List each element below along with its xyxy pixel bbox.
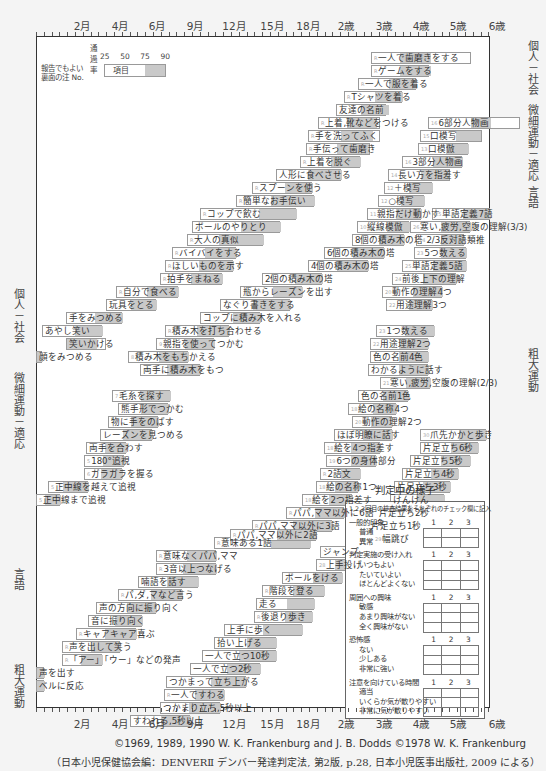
footnote-number: R bbox=[203, 211, 206, 217]
milestone-label: 一人で立つ10秒 bbox=[205, 650, 270, 662]
observation-checkbox-cell[interactable] bbox=[424, 529, 442, 538]
footnote-number: 25 bbox=[435, 211, 441, 217]
observation-checkbox-cell[interactable] bbox=[442, 656, 460, 665]
age-tick-label: 2歳 bbox=[338, 716, 355, 731]
observation-checkbox-cell[interactable] bbox=[461, 646, 478, 655]
footnote-number: 5 bbox=[87, 458, 90, 464]
axis-tick bbox=[270, 708, 271, 712]
milestone-label: 2個の積み木の塔 bbox=[265, 273, 333, 285]
observation-checkbox-cell[interactable] bbox=[461, 656, 478, 665]
sector-label-fine-motor-right: 微細運動－適応 bbox=[526, 104, 538, 181]
milestone-label: 8積み木をもちかえる bbox=[131, 351, 216, 363]
observation-checkbox-cell[interactable] bbox=[442, 561, 460, 570]
legend-item-label: 項目 bbox=[113, 65, 129, 76]
milestone-label: 片足立ち3秒 bbox=[397, 481, 447, 493]
milestone-label: 片足立ち6秒 bbox=[423, 442, 473, 454]
axis-tick bbox=[278, 708, 279, 712]
milestone-text: 寒い,疲労,空腹の理解(2/3) bbox=[390, 378, 497, 388]
milestone-text: 親指を使ってつかむ bbox=[163, 339, 244, 349]
observation-checkbox-cell[interactable] bbox=[442, 529, 460, 538]
observation-checkbox-cell[interactable] bbox=[424, 571, 442, 580]
milestone-label: R手伝って歯磨き bbox=[309, 143, 376, 155]
observation-checkbox-cell[interactable] bbox=[424, 698, 442, 707]
milestone-text: 一人で立つ2秒 bbox=[193, 664, 252, 674]
milestone-text: 爪先かかと歩き bbox=[430, 430, 493, 440]
milestone-label: 走る bbox=[259, 598, 277, 610]
footnote-number: R bbox=[65, 644, 68, 650]
axis-tick bbox=[145, 708, 146, 712]
milestone-text: なぐり書きをする bbox=[223, 300, 295, 310]
observation-checkbox-cell[interactable] bbox=[461, 581, 478, 590]
milestone-label: 5正中線を越えて追視 bbox=[51, 481, 136, 493]
observation-checkbox-cell[interactable] bbox=[424, 604, 442, 613]
milestone-label: 片足立ち5秒 bbox=[413, 455, 463, 467]
observation-columns: 123 bbox=[425, 635, 477, 645]
observation-checkbox-cell[interactable] bbox=[442, 538, 460, 547]
sector-label-fine-motor-left: 微細運動－適応 bbox=[12, 372, 24, 449]
observation-checkbox-cell[interactable] bbox=[442, 604, 460, 613]
observation-checkbox-cell[interactable] bbox=[461, 689, 478, 698]
observation-checkbox-cell[interactable] bbox=[442, 698, 460, 707]
milestone-text: ボールのやりとり bbox=[195, 222, 267, 232]
observation-checkbox-cell[interactable] bbox=[442, 581, 460, 590]
milestone-label: 25単語定義5語 bbox=[405, 260, 463, 272]
footnote-number: 14 bbox=[391, 172, 397, 178]
observation-checkbox-cell[interactable] bbox=[442, 689, 460, 698]
observation-checkbox-cell[interactable] bbox=[442, 623, 460, 632]
observation-checkbox-cell[interactable] bbox=[461, 698, 478, 707]
observation-checkbox-cell[interactable] bbox=[424, 561, 442, 570]
axis-tick bbox=[340, 708, 341, 712]
axis-tick bbox=[473, 708, 474, 712]
observation-checkbox-cell[interactable] bbox=[424, 689, 442, 698]
milestone-label: 6個の積み木の塔 bbox=[327, 247, 395, 259]
milestone-text: 6個の積み木の塔 bbox=[327, 248, 395, 258]
milestone-text: スプーンを使う bbox=[259, 183, 322, 193]
observation-checkbox-cell[interactable] bbox=[424, 665, 442, 674]
observation-checkbox-cell[interactable] bbox=[461, 623, 478, 632]
milestone-label: R一人で服を着る bbox=[361, 78, 428, 90]
milestone-text: パパ,ママ以外に2語 bbox=[237, 530, 317, 540]
axis-tick bbox=[301, 708, 302, 712]
observation-checkbox-cell[interactable] bbox=[424, 581, 442, 590]
observation-checkbox-cell[interactable] bbox=[424, 538, 442, 547]
observation-checkbox-cell[interactable] bbox=[424, 623, 442, 632]
milestone-text: ガラガラを握る bbox=[91, 469, 154, 479]
pass-rate-75-90-shade bbox=[287, 599, 315, 609]
milestone-label: 18絵を2つ指差す bbox=[305, 494, 372, 506]
observation-checkbox-cell[interactable] bbox=[461, 665, 478, 674]
observation-checkbox-cell[interactable] bbox=[461, 613, 478, 622]
milestone-label: R声を出して笑う bbox=[65, 641, 132, 653]
observation-checkbox-cell[interactable] bbox=[461, 561, 478, 570]
milestone-text: 用途理解2つ bbox=[380, 339, 430, 349]
footnote-number: 21 bbox=[383, 380, 389, 386]
milestone-label: 29幅跳び bbox=[375, 533, 409, 545]
observation-checkbox-cell[interactable] bbox=[461, 538, 478, 547]
observation-checkbox-cell[interactable] bbox=[461, 604, 478, 613]
observation-checkbox-cell[interactable] bbox=[424, 646, 442, 655]
milestone-text: 片足立ち3秒 bbox=[397, 482, 447, 492]
milestone-label: 7毛糸を探す bbox=[115, 390, 164, 402]
milestone-text: パパ,ママ以外に6語 bbox=[293, 508, 373, 518]
milestone-text: ボールをける bbox=[285, 573, 339, 583]
observation-checkbox-cell[interactable] bbox=[442, 646, 460, 655]
milestone-text: 3部分人物画 bbox=[412, 157, 462, 167]
milestone-label: 30爪先かかと歩き bbox=[423, 429, 493, 441]
observation-checkbox-cell[interactable] bbox=[442, 665, 460, 674]
footnote-number: 12 bbox=[387, 185, 393, 191]
observation-checkbox-cell[interactable] bbox=[442, 613, 460, 622]
observation-checkbox-cell[interactable] bbox=[424, 613, 442, 622]
observation-checkbox-cell[interactable] bbox=[461, 571, 478, 580]
observation-checkbox-row bbox=[424, 698, 478, 708]
milestone-label: Rコップで飲む bbox=[203, 208, 261, 220]
observation-checkbox-cell[interactable] bbox=[424, 656, 442, 665]
milestone-text: 5つ数える bbox=[424, 248, 465, 258]
observation-checkbox-cell[interactable] bbox=[442, 571, 460, 580]
milestone-label: R後退り歩き bbox=[257, 611, 306, 623]
axis-tick bbox=[332, 708, 333, 712]
axis-tick bbox=[67, 708, 68, 712]
observation-checkbox-cell[interactable] bbox=[461, 529, 478, 538]
legend-percentiles: 25 50 75 90 bbox=[100, 52, 170, 61]
observation-column-label: 1 bbox=[431, 550, 436, 560]
milestone-label: 18絵の名称4つ bbox=[351, 403, 409, 415]
bottom-age-axis: 2月 4月 6月 9月 12月 15月 18月 2歳 3歳 4歳 5歳 6歳 bbox=[0, 716, 546, 734]
